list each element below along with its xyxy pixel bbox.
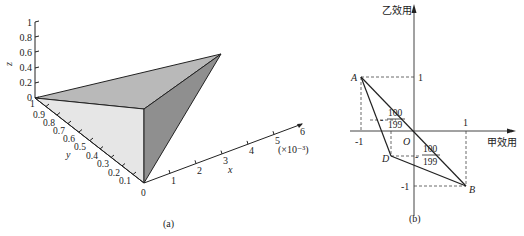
- y-axis-label: y: [65, 149, 71, 160]
- y-axis-label: 乙效用: [382, 4, 412, 16]
- svg-text:199: 199: [388, 120, 403, 130]
- figure-a-3d-plot: 0 0.2 0.4 0.6 0.8 1 z 1 0.9 0.8 0.7 0.6 …: [3, 17, 309, 230]
- z-tick-02: 0.2: [20, 77, 33, 88]
- x-tick-4: 4: [249, 145, 254, 156]
- z-ticks: [35, 21, 39, 98]
- point-d-label: D: [381, 153, 390, 164]
- caption-b: (b): [409, 213, 421, 225]
- point-b-label: B: [469, 184, 475, 195]
- x-axis-arrow: [507, 129, 516, 134]
- svg-text:-: -: [415, 151, 418, 162]
- y-tick-1: 1: [30, 99, 35, 109]
- y-tick-neg1: -1: [401, 181, 409, 192]
- z-tick-04: 0.4: [20, 62, 33, 73]
- y-tick-1: 1: [418, 72, 423, 83]
- z-tick-06: 0.6: [20, 47, 33, 58]
- x-axis-label: x: [227, 164, 233, 175]
- y-tick-0: 0: [141, 188, 146, 198]
- point-a-label: A: [350, 72, 358, 83]
- y-tick-01: 0.1: [119, 176, 131, 186]
- svg-text:-: -: [380, 114, 383, 125]
- x-tick-neg1: -1: [355, 136, 363, 147]
- x-tick-6: 6: [300, 126, 305, 137]
- x-tick-1: 1: [171, 175, 176, 186]
- svg-text:100: 100: [423, 144, 438, 154]
- z-tick-1: 1: [27, 17, 32, 28]
- x-tick-2: 2: [197, 165, 202, 176]
- origin-label: O: [403, 136, 410, 147]
- fraction-upper: - 100 199: [380, 108, 405, 130]
- z-tick-08: 0.8: [20, 32, 33, 43]
- x-axis-scale: (×10⁻³): [278, 144, 309, 156]
- y-tick-05: 0.5: [74, 142, 86, 152]
- z-axis-label: z: [3, 62, 14, 67]
- x-tick-1: 1: [463, 117, 468, 128]
- svg-text:100: 100: [388, 108, 403, 118]
- svg-text:199: 199: [423, 157, 438, 167]
- y-axis-arrow: [412, 4, 417, 13]
- x-ticks: [169, 131, 274, 173]
- caption-a: (a): [163, 218, 174, 230]
- figure-b-utility-plot: 乙效用 甲效用 A B D O 1 -1 -1 1 -: [350, 4, 517, 225]
- x-axis-label: 甲效用: [487, 136, 517, 148]
